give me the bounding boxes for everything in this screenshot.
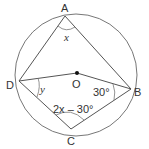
center-point	[75, 71, 79, 75]
angle-arc-A	[58, 26, 75, 30]
segment-DO	[19, 73, 77, 81]
angle-arc-D	[37, 78, 39, 97]
label-B: B	[134, 86, 141, 98]
label-A: A	[61, 2, 69, 14]
angle-label-B: 30°	[93, 86, 110, 98]
label-C: C	[67, 135, 75, 147]
segment-AD	[19, 16, 65, 81]
angle-label-D: y	[39, 83, 45, 95]
label-D: D	[6, 79, 14, 91]
circle-diagram: A B C D O x y 30° 2x – 30°	[0, 0, 149, 149]
angle-label-A: x	[63, 31, 69, 43]
angle-arc-B	[113, 84, 115, 100]
angle-label-C: 2x – 30°	[53, 103, 93, 115]
label-O: O	[72, 78, 81, 90]
